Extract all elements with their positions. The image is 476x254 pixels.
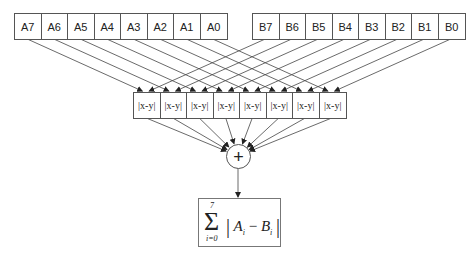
abs-diff-unit: |x-y| bbox=[134, 93, 161, 118]
sum-wire bbox=[173, 118, 227, 149]
input-wire bbox=[160, 39, 275, 91]
sigma-icon: Σ bbox=[204, 209, 219, 235]
b-bit-3: B3 bbox=[359, 14, 386, 39]
sum-wire bbox=[243, 118, 253, 144]
input-wire bbox=[186, 39, 301, 91]
input-wire bbox=[308, 39, 424, 91]
sum-lower-limit: i=0 bbox=[206, 234, 218, 243]
adder-node: + bbox=[226, 144, 251, 169]
b-bit-7: B7 bbox=[253, 14, 280, 39]
input-wire bbox=[213, 39, 328, 91]
abs-diff-unit: |x-y| bbox=[320, 93, 347, 118]
abs-diff-unit: |x-y| bbox=[187, 93, 214, 118]
abs-diff-units: |x-y| |x-y| |x-y| |x-y| |x-y| |x-y| |x-y… bbox=[133, 92, 347, 119]
b-bit-6: B6 bbox=[280, 14, 307, 39]
sum-wire bbox=[248, 118, 279, 147]
input-wire bbox=[255, 39, 371, 91]
a-bit-6: A6 bbox=[42, 14, 69, 39]
abs-diff-unit: |x-y| bbox=[293, 93, 320, 118]
output-sum-formula: 7 Σ i=0 | Ai − Bi | bbox=[198, 198, 281, 247]
input-register-b: B7 B6 B5 B4 B3 B2 B1 B0 bbox=[252, 13, 466, 40]
input-wire bbox=[107, 39, 222, 91]
sum-wire bbox=[250, 118, 332, 151]
a-bit-0: A0 bbox=[201, 14, 228, 39]
sum-wire bbox=[146, 118, 226, 151]
input-wire bbox=[229, 39, 345, 91]
abs-diff-unit: |x-y| bbox=[240, 93, 267, 118]
input-wire bbox=[282, 39, 398, 91]
input-wire bbox=[133, 39, 248, 91]
sum-wire bbox=[226, 118, 234, 144]
b-bit-4: B4 bbox=[333, 14, 360, 39]
abs-diff-unit: |x-y| bbox=[267, 93, 294, 118]
input-wire bbox=[80, 39, 195, 91]
input-register-a: A7 A6 A5 A4 A3 A2 A1 A0 bbox=[14, 13, 228, 40]
input-wire bbox=[335, 39, 451, 91]
b-bit-1: B1 bbox=[412, 14, 439, 39]
sum-expression: | Ai − Bi | bbox=[226, 213, 280, 236]
abs-diff-unit: |x-y| bbox=[214, 93, 241, 118]
b-bit-0: B0 bbox=[439, 14, 466, 39]
sum-wire bbox=[249, 118, 305, 150]
abs-diff-unit: |x-y| bbox=[161, 93, 188, 118]
a-bit-5: A5 bbox=[68, 14, 95, 39]
a-bit-2: A2 bbox=[148, 14, 175, 39]
input-wire bbox=[54, 39, 169, 91]
input-wire bbox=[202, 39, 318, 91]
sum-wire bbox=[199, 118, 228, 147]
plus-icon: + bbox=[233, 148, 244, 166]
a-bit-7: A7 bbox=[15, 14, 42, 39]
a-bit-1: A1 bbox=[174, 14, 201, 39]
b-bit-2: B2 bbox=[386, 14, 413, 39]
a-bit-3: A3 bbox=[121, 14, 148, 39]
input-wire bbox=[176, 39, 292, 91]
input-wire bbox=[27, 39, 142, 91]
b-bit-5: B5 bbox=[306, 14, 333, 39]
a-bit-4: A4 bbox=[95, 14, 122, 39]
input-wire bbox=[149, 39, 265, 91]
